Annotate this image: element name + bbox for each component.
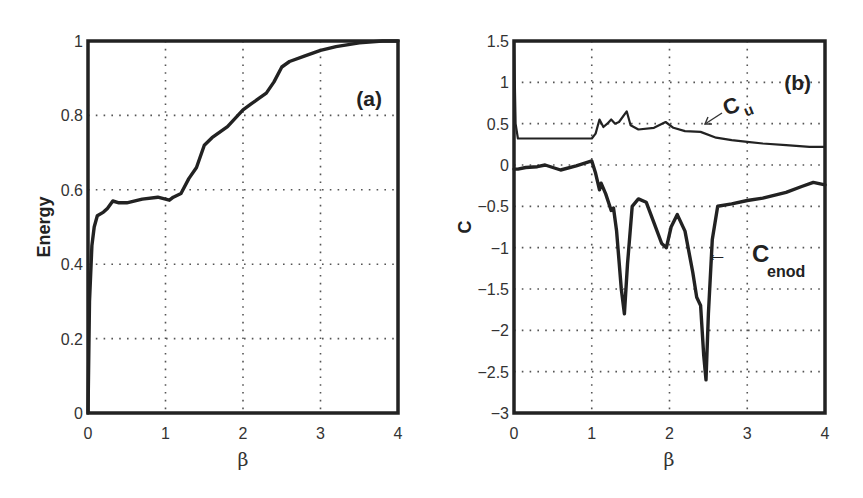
y-tick-label: −2	[491, 322, 509, 339]
y-tick-label: 1	[74, 33, 83, 50]
annotation-c-u-sub: u	[741, 100, 756, 119]
x-axis-label-b: β	[664, 448, 675, 470]
chart-panel-b: 01234 −3−2.5−2−1.5−1−0.500.511.5 β C (b)…	[455, 33, 830, 470]
figure: 01234 00.20.40.60.81 β Energy (a) 01234 …	[0, 0, 863, 498]
y-tick-label: −2.5	[477, 364, 509, 381]
y-tick-label: 0.8	[61, 107, 83, 124]
y-ticks-a: 00.20.40.60.81	[61, 33, 83, 422]
y-tick-label: 0	[74, 405, 83, 422]
x-axis-label-a: β	[238, 448, 249, 470]
x-tick-label: 2	[665, 425, 674, 442]
x-tick-label: 0	[510, 425, 519, 442]
grid-a	[88, 41, 398, 413]
annotation-c-enod-arrow: ←	[706, 241, 728, 266]
chart-panel-a: 01234 00.20.40.60.81 β Energy (a)	[34, 33, 403, 470]
y-axis-label-b: C	[455, 221, 475, 234]
panel-label-a: (a)	[356, 87, 382, 110]
x-ticks-b: 01234	[510, 425, 830, 442]
y-tick-label: −1	[491, 240, 509, 257]
panel-label-b: (b)	[784, 71, 811, 94]
x-tick-label: 1	[587, 425, 596, 442]
x-ticks-a: 01234	[84, 425, 403, 442]
y-tick-label: 0.2	[61, 331, 83, 348]
y-tick-label: 0.4	[61, 256, 83, 273]
y-ticks-b: −3−2.5−2−1.5−1−0.500.511.5	[477, 33, 509, 422]
y-tick-label: −1.5	[477, 281, 509, 298]
y-tick-label: −0.5	[477, 198, 509, 215]
annotation-c-u: C u	[719, 87, 756, 126]
y-tick-label: 1.5	[487, 33, 509, 50]
annotation-c-u-main: C	[719, 91, 743, 120]
x-tick-label: 4	[821, 425, 830, 442]
x-tick-label: 3	[743, 425, 752, 442]
y-tick-label: 0.6	[61, 182, 83, 199]
x-tick-label: 0	[84, 425, 93, 442]
y-tick-label: 0.5	[487, 116, 509, 133]
y-axis-label-a: Energy	[34, 196, 54, 257]
y-tick-label: −3	[491, 405, 509, 422]
y-tick-label: 0	[500, 157, 509, 174]
x-tick-label: 1	[161, 425, 170, 442]
y-tick-label: 1	[500, 74, 509, 91]
annotation-c-enod-sub: enod	[767, 263, 805, 280]
x-tick-label: 3	[316, 425, 325, 442]
x-tick-label: 4	[394, 425, 403, 442]
x-tick-label: 2	[239, 425, 248, 442]
